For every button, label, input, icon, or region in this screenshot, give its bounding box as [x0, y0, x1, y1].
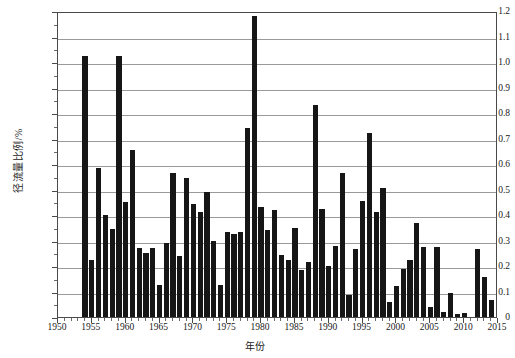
bar: [434, 247, 439, 317]
bar: [455, 314, 460, 317]
bar: [143, 253, 148, 317]
bar: [130, 150, 135, 317]
bar: [401, 269, 406, 317]
bar: [103, 215, 108, 317]
bar: [482, 277, 487, 317]
bar: [157, 285, 162, 317]
y-minor-tick-mark: [54, 178, 57, 179]
x-minor-tick-mark: [118, 318, 119, 321]
y-minor-tick-mark: [54, 305, 57, 306]
y-minor-tick-mark: [54, 254, 57, 255]
x-tick-mark: [125, 318, 126, 323]
y-tick-label: 1.0: [466, 58, 510, 68]
x-minor-tick-mark: [84, 318, 85, 321]
x-minor-tick-mark: [450, 318, 451, 321]
x-minor-tick-mark: [267, 318, 268, 321]
y-tick-mark: [52, 114, 57, 115]
bar: [374, 212, 379, 317]
x-minor-tick-mark: [483, 318, 484, 321]
x-minor-tick-mark: [307, 318, 308, 321]
bar: [313, 105, 318, 317]
x-minor-tick-mark: [71, 318, 72, 321]
y-tick-mark: [52, 63, 57, 64]
x-minor-tick-mark: [253, 318, 254, 321]
y-tick-mark: [52, 216, 57, 217]
x-minor-tick-mark: [490, 318, 491, 321]
x-minor-tick-mark: [355, 318, 356, 321]
x-tick-mark: [362, 318, 363, 323]
y-minor-tick-mark: [54, 152, 57, 153]
y-tick-label: 1.1: [466, 33, 510, 43]
bar: [123, 202, 128, 317]
x-minor-tick-mark: [423, 318, 424, 321]
x-minor-tick-mark: [240, 318, 241, 321]
y-minor-tick-mark: [54, 229, 57, 230]
x-minor-tick-mark: [409, 318, 410, 321]
bar: [204, 192, 209, 317]
y-tick-label: 0.2: [466, 262, 510, 272]
y-tick-label: 0.8: [466, 109, 510, 119]
x-minor-tick-mark: [416, 318, 417, 321]
x-minor-tick-mark: [111, 318, 112, 321]
y-minor-tick-mark: [54, 280, 57, 281]
bar: [198, 212, 203, 317]
x-minor-tick-mark: [280, 318, 281, 321]
bar: [360, 201, 365, 317]
bar: [353, 249, 358, 317]
bar: [258, 207, 263, 317]
x-minor-tick-mark: [274, 318, 275, 321]
bar: [448, 293, 453, 317]
x-minor-tick-mark: [477, 318, 478, 321]
y-tick-mark: [52, 38, 57, 39]
x-minor-tick-mark: [172, 318, 173, 321]
x-minor-tick-mark: [314, 318, 315, 321]
bar: [191, 204, 196, 317]
x-tick-label: 2015: [477, 322, 515, 332]
x-minor-tick-mark: [98, 318, 99, 321]
gridline: [58, 141, 496, 142]
x-minor-tick-mark: [368, 318, 369, 321]
y-tick-label: 0.9: [466, 84, 510, 94]
bar: [184, 178, 189, 317]
plot-area: [57, 12, 497, 318]
x-tick-mark: [260, 318, 261, 323]
bar: [177, 256, 182, 317]
x-minor-tick-mark: [213, 318, 214, 321]
bar: [89, 260, 94, 317]
y-tick-label: 0.6: [466, 160, 510, 170]
bar: [380, 188, 385, 317]
bar: [475, 249, 480, 317]
x-tick-mark: [159, 318, 160, 323]
x-minor-tick-mark: [186, 318, 187, 321]
y-tick-mark: [52, 140, 57, 141]
x-minor-tick-mark: [145, 318, 146, 321]
y-tick-mark: [52, 12, 57, 13]
y-tick-label: 0.4: [466, 211, 510, 221]
bar: [414, 223, 419, 317]
gridline: [58, 64, 496, 65]
x-tick-mark: [395, 318, 396, 323]
bar: [299, 270, 304, 317]
bar: [292, 228, 297, 317]
bar: [340, 173, 345, 317]
bar: [387, 302, 392, 317]
x-minor-tick-mark: [219, 318, 220, 321]
bar: [245, 128, 250, 317]
y-tick-label: 0.3: [466, 237, 510, 247]
bar: [96, 168, 101, 317]
x-minor-tick-mark: [436, 318, 437, 321]
y-tick-label: 0.1: [466, 288, 510, 298]
bar: [306, 262, 311, 317]
x-minor-tick-mark: [131, 318, 132, 321]
bar: [82, 56, 87, 317]
y-tick-mark: [52, 165, 57, 166]
y-minor-tick-mark: [54, 203, 57, 204]
bar: [116, 56, 121, 317]
y-minor-tick-mark: [54, 76, 57, 77]
bar: [137, 248, 142, 317]
gridline: [58, 115, 496, 116]
bar: [170, 173, 175, 317]
x-minor-tick-mark: [138, 318, 139, 321]
x-tick-mark: [328, 318, 329, 323]
